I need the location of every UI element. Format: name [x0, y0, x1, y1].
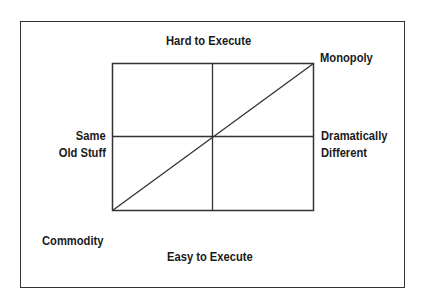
matrix-diagram: Hard to Execute Easy to Execute Monopoly… — [0, 0, 425, 308]
label-dramatically: Dramatically — [321, 127, 388, 144]
label-easy-to-execute: Easy to Execute — [167, 248, 253, 265]
label-commodity: Commodity — [42, 232, 103, 249]
label-old-stuff: Old Stuff — [59, 144, 106, 161]
label-different: Different — [321, 144, 367, 161]
label-same: Same — [76, 127, 106, 144]
label-hard-to-execute: Hard to Execute — [166, 32, 251, 49]
label-monopoly: Monopoly — [320, 49, 373, 66]
